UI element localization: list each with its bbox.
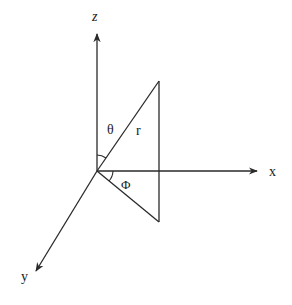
x-axis-label: x [269, 164, 276, 179]
phi-label: Φ [121, 177, 131, 192]
z-axis-label: z [91, 9, 98, 24]
y-axis-label: y [21, 269, 28, 284]
r-label: r [136, 123, 141, 138]
phi-arc [109, 171, 113, 181]
y-axis [36, 171, 97, 271]
spherical-coordinates-diagram: z x y r θ Φ [0, 0, 292, 305]
theta-label: θ [107, 122, 114, 137]
theta-arc [97, 155, 106, 158]
